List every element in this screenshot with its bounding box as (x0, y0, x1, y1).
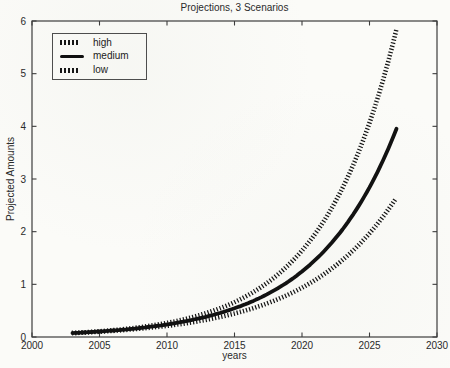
hatch-mark (269, 279, 272, 283)
hatch-mark (240, 310, 241, 315)
hatch-mark (357, 149, 361, 151)
hatch-mark (341, 187, 345, 189)
hatch-mark (353, 161, 357, 163)
hatch-mark (234, 311, 235, 316)
hatch-mark (270, 300, 272, 304)
hatch-mark (158, 325, 159, 330)
hatch-mark (213, 308, 215, 312)
hatch-mark (231, 312, 232, 317)
hatch-mark (267, 281, 270, 285)
hatch-mark (326, 270, 329, 274)
legend-item-low: low (60, 64, 146, 77)
hatch-mark (364, 131, 368, 133)
hatch-mark (375, 98, 379, 99)
hatch-mark (392, 36, 396, 37)
hatch-mark (219, 306, 221, 310)
hatch-mark (242, 296, 244, 300)
hatch-mark (174, 323, 175, 328)
hatch-mark (348, 252, 351, 255)
hatch-mark (251, 291, 253, 295)
hatch-mark (382, 77, 386, 78)
hatch-mark (313, 279, 316, 283)
hatch-mark (187, 321, 188, 326)
hatch-mark (284, 266, 287, 269)
hatch-mark (297, 253, 300, 256)
hatch-mark (304, 284, 306, 288)
hatch-mark (168, 323, 169, 328)
hatch-mark (391, 43, 396, 44)
hatch-mark (231, 301, 233, 305)
hatch-mark (347, 173, 351, 175)
hatch-mark (380, 83, 384, 84)
hatch-mark (392, 39, 397, 40)
hatch-mark (228, 303, 230, 307)
hatch-mark (338, 193, 342, 195)
hatch-mark (267, 301, 269, 305)
hatch-mark (389, 49, 394, 50)
hatch-mark (181, 322, 182, 327)
hatch-mark (240, 297, 242, 301)
hatch-mark (338, 261, 341, 265)
hatch-mark (256, 288, 259, 292)
hatch-mark (359, 146, 363, 148)
hatch-mark (370, 229, 373, 232)
hatch-mark (357, 243, 360, 246)
hatch-mark (333, 201, 337, 203)
hatch-mark (380, 217, 384, 220)
chart-title: Projections, 3 Scenarios (32, 2, 437, 13)
hatch-mark (224, 314, 225, 319)
hatch-mark (299, 251, 303, 254)
hatch-mark (246, 308, 247, 312)
hatch-mark (351, 164, 355, 166)
hatch-mark (386, 61, 390, 62)
hatch-mark (274, 275, 277, 279)
hatch-mark (317, 228, 321, 231)
hatch-mark (373, 104, 377, 105)
hatch-mark (362, 239, 365, 242)
hatch-mark (261, 284, 264, 288)
hatch-mark (349, 170, 353, 172)
hatch-mark (372, 227, 376, 230)
hatch-mark (155, 325, 156, 330)
hatch-mark (332, 204, 336, 206)
legend-item-high: high (60, 36, 146, 49)
hatch-mark (253, 289, 255, 293)
hatch-mark (165, 324, 166, 329)
hatch-mark (303, 246, 307, 249)
y-tick-label: 0 (20, 332, 26, 343)
hatch-mark (293, 258, 296, 261)
hatch-mark (388, 52, 393, 53)
hatch-mark (371, 110, 375, 112)
hatch-mark (339, 190, 343, 192)
hatch-mark (363, 134, 367, 136)
hatch-mark (355, 155, 359, 157)
hatch-mark (296, 288, 298, 292)
legend-label-high: high (93, 38, 112, 48)
hatch-mark (385, 64, 390, 65)
hatch-mark (328, 209, 332, 211)
hatch-mark (301, 248, 305, 251)
hatch-mark (362, 137, 366, 139)
hatch-mark (368, 232, 371, 235)
hatch-mark (333, 264, 336, 268)
legend: high medium low (52, 33, 147, 80)
hatch-mark (305, 243, 309, 246)
hatch-mark (346, 175, 350, 177)
hatch-mark (295, 255, 298, 258)
solid-line-icon (60, 55, 84, 59)
hatch-mark (309, 238, 313, 241)
hatch-mark (282, 295, 284, 299)
hatch-mark (216, 307, 218, 311)
hatch-mark (372, 107, 376, 108)
y-tick-label: 2 (20, 226, 26, 237)
hatch-mark (330, 207, 334, 209)
hatch-mark (343, 256, 346, 260)
hatch-mark (346, 254, 349, 257)
hatch-mark (390, 46, 395, 47)
hatch-mark (252, 306, 253, 310)
hatch-mark (336, 263, 339, 267)
hatch-mark (354, 158, 358, 160)
legend-item-medium: medium (60, 50, 146, 63)
hatch-mark (281, 269, 284, 273)
hatch-mark (366, 234, 369, 237)
